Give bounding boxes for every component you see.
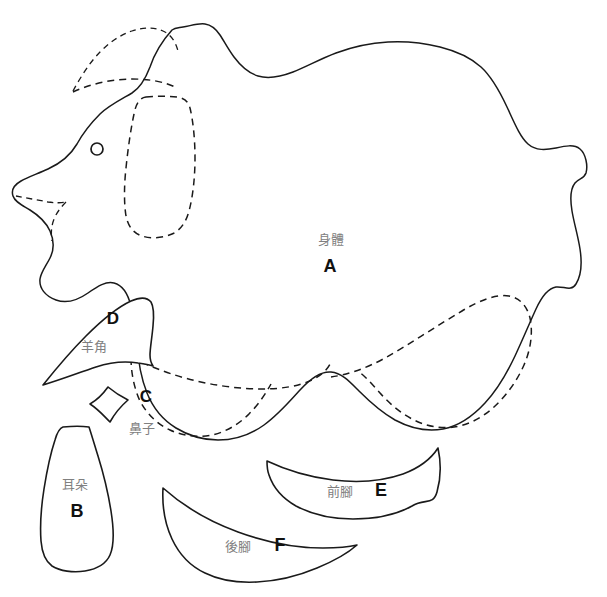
piece-front-leg-E[interactable]: [267, 448, 440, 519]
label-letter-nose: C: [140, 387, 152, 406]
label-letter-ear: B: [71, 501, 84, 521]
label-letter-front-leg: E: [375, 480, 387, 500]
eye-placement-circle: [91, 143, 103, 155]
label-cn-ear: 耳朵: [62, 477, 89, 492]
label-cn-back-leg: 後腳: [225, 539, 252, 554]
label-cn-nose: 鼻子: [129, 421, 156, 436]
piece-nose-C[interactable]: [90, 387, 128, 422]
label-letter-horn: D: [107, 309, 119, 328]
piece-body-A[interactable]: [12, 24, 586, 440]
label-cn-front-leg: 前腳: [327, 484, 354, 499]
ear-outline-path[interactable]: [41, 426, 114, 572]
nose-outline-path[interactable]: [90, 387, 128, 422]
body-outline-path[interactable]: [12, 24, 586, 440]
piece-ear-B[interactable]: [41, 426, 114, 572]
label-cn-body: 身體: [318, 232, 345, 247]
label-letter-body: A: [324, 256, 337, 276]
label-cn-horn: 羊角: [81, 339, 108, 354]
pattern-drawing: 身體 A 耳朵 B C 鼻子 D 羊角 前腳 E 後腳 F: [0, 0, 607, 597]
front-leg-outline-path[interactable]: [267, 448, 440, 519]
pattern-sheet: 身體 A 耳朵 B C 鼻子 D 羊角 前腳 E 後腳 F: [0, 0, 607, 597]
label-letter-back-leg: F: [275, 535, 286, 555]
